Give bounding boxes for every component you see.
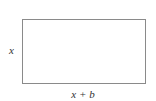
rectangle [22, 19, 146, 84]
width-label: x + b [0, 89, 156, 100]
height-label: x [9, 45, 14, 56]
